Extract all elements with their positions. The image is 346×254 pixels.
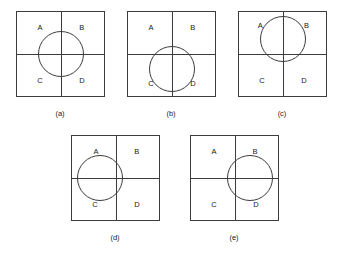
figure-e: ABCD (190, 135, 279, 221)
figure-caption-c: (c) (278, 110, 287, 118)
figure-caption-a: (a) (55, 110, 64, 118)
quadrant-label-d: D (79, 77, 84, 85)
quadrant-label-a: A (212, 148, 217, 156)
figure-caption-e: (e) (229, 234, 238, 242)
circle-shape (38, 31, 84, 77)
quadrant-label-a: A (149, 24, 154, 32)
quadrant-label-c: C (259, 77, 264, 85)
quadrant-label-c: C (211, 201, 216, 209)
figure-d: ABCD (71, 135, 160, 221)
figure-caption-b: (b) (166, 110, 175, 118)
quadrant-label-b: B (304, 23, 309, 31)
quadrant-label-d: D (253, 201, 258, 209)
quadrant-label-a: A (38, 24, 43, 32)
figure-sheet: ABCD(a)ABCD(b)ABCD(c)ABCD(d)ABCD(e) (0, 0, 346, 254)
quadrant-label-b: B (190, 24, 195, 32)
quadrant-label-b: B (252, 148, 257, 156)
quadrant-label-d: D (134, 201, 139, 209)
quadrant-label-a: A (93, 148, 98, 156)
quadrant-label-d: D (301, 77, 306, 85)
circle-shape (260, 16, 306, 62)
circle-shape (227, 155, 273, 201)
quadrant-label-c: C (148, 80, 153, 88)
quadrant-label-c: C (37, 77, 42, 85)
quadrant-label-b: B (134, 148, 139, 156)
figure-a: ABCD (16, 11, 105, 97)
quadrant-label-d: D (190, 80, 195, 88)
figure-b: ABCD (127, 11, 216, 97)
figure-caption-d: (d) (110, 234, 119, 242)
quadrant-label-b: B (79, 24, 84, 32)
figure-c: ABCD (238, 11, 327, 97)
quadrant-label-a: A (258, 23, 263, 31)
quadrant-label-c: C (92, 201, 97, 209)
circle-shape (149, 46, 195, 92)
